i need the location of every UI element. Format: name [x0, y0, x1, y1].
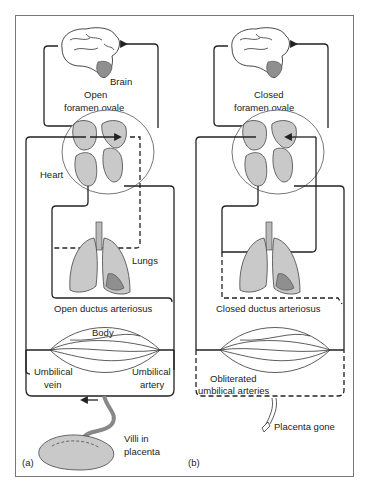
label-open-foramen-1: Open	[84, 89, 107, 100]
label-lungs: Lungs	[132, 255, 158, 266]
figure-frame	[16, 16, 354, 477]
flow-aorta	[124, 186, 174, 370]
placenta-icon	[39, 435, 114, 470]
label-placenta-gone: Placenta gone	[274, 421, 335, 432]
lungs-icon	[240, 222, 300, 294]
label-obliterated-2: umbilical arteries	[198, 385, 270, 396]
placenta-gone-icon	[262, 422, 270, 432]
panel-a-tag: (a)	[22, 457, 34, 468]
label-body: Body	[92, 327, 114, 338]
panel-a: Brain Open foramen ovale Heart	[22, 28, 174, 470]
label-closed-ductus: Closed ductus arteriosus	[216, 303, 321, 314]
label-umbilical-artery-2: artery	[140, 379, 165, 390]
label-villi-2: placenta	[124, 446, 161, 457]
label-umbilical-vein-2: vein	[44, 379, 61, 390]
label-umbilical-vein-1: Umbilical	[34, 366, 73, 377]
flow-to-lungs	[222, 186, 258, 252]
panel-b: Closed foramen ovale Closed ductus arter…	[188, 28, 344, 468]
fetal-circulation-diagram: Brain Open foramen ovale Heart	[0, 0, 368, 488]
label-open-ductus: Open ductus arteriosus	[54, 303, 152, 314]
label-villi-1: Villi in	[124, 433, 149, 444]
lungs-icon	[70, 222, 130, 294]
label-brain: Brain	[110, 76, 132, 87]
flow-aorta	[294, 186, 344, 350]
label-umbilical-artery-1: Umbilical	[132, 366, 171, 377]
umbilical-cord	[82, 396, 114, 440]
label-obliterated-1: Obliterated	[210, 373, 256, 384]
body-capillaries	[220, 328, 330, 373]
flow-left-return	[196, 137, 200, 350]
label-heart: Heart	[40, 169, 64, 180]
brain-icon	[232, 28, 290, 78]
brain-icon	[62, 28, 120, 78]
panel-b-tag: (b)	[188, 457, 200, 468]
heart-icon	[232, 110, 324, 194]
label-closed-foramen-1: Closed	[254, 89, 284, 100]
